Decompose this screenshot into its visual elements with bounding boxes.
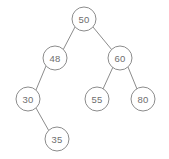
edge-layer — [36, 27, 137, 131]
node-layer: 50486030558035 — [16, 7, 155, 151]
node-label: 55 — [92, 94, 103, 105]
node-label: 35 — [52, 134, 63, 145]
tree-node[interactable]: 30 — [16, 87, 40, 111]
tree-edge — [36, 108, 49, 131]
tree-edge — [63, 27, 75, 50]
tree-node[interactable]: 35 — [45, 127, 69, 151]
node-label: 60 — [115, 53, 126, 64]
node-label: 80 — [138, 94, 149, 105]
tree-canvas: 50486030558035 — [0, 0, 169, 159]
node-label: 30 — [23, 94, 34, 105]
tree-edge — [36, 66, 46, 90]
tree-node[interactable]: 48 — [43, 46, 67, 70]
tree-node[interactable]: 50 — [72, 7, 96, 31]
tree-edge — [103, 67, 113, 89]
node-label: 50 — [79, 14, 90, 25]
tree-node[interactable]: 60 — [108, 46, 132, 70]
node-label: 48 — [50, 53, 61, 64]
binary-search-tree-diagram: 50486030558035 — [0, 0, 169, 159]
tree-node[interactable]: 55 — [85, 87, 109, 111]
tree-edge — [93, 27, 112, 50]
tree-node[interactable]: 80 — [131, 87, 155, 111]
tree-edge — [128, 67, 137, 89]
